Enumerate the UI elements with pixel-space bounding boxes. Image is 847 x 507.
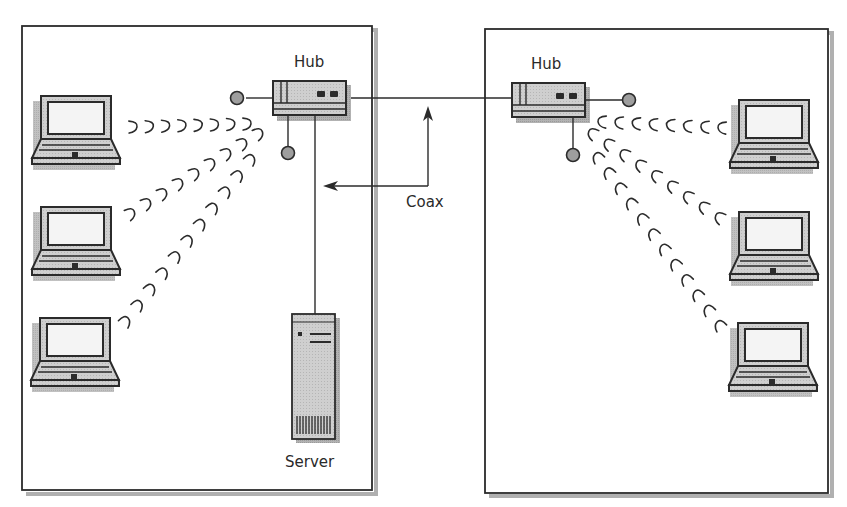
laptop-right-2 [730, 212, 818, 286]
server-icon [292, 314, 340, 443]
right-hub-icon [512, 83, 590, 123]
network-diagram: Coax Hub Server Hub [0, 0, 847, 507]
laptop-right-3 [729, 323, 817, 397]
laptop-left-2 [32, 207, 120, 281]
left-hub-label: Hub [294, 53, 324, 71]
laptop-left-1 [32, 96, 120, 170]
left-hub-icon [273, 81, 351, 121]
coax-label: Coax [406, 193, 444, 211]
server-label: Server [285, 453, 335, 471]
laptop-left-3 [31, 318, 119, 392]
right-hub-label: Hub [531, 55, 561, 73]
laptop-right-1 [730, 100, 818, 174]
